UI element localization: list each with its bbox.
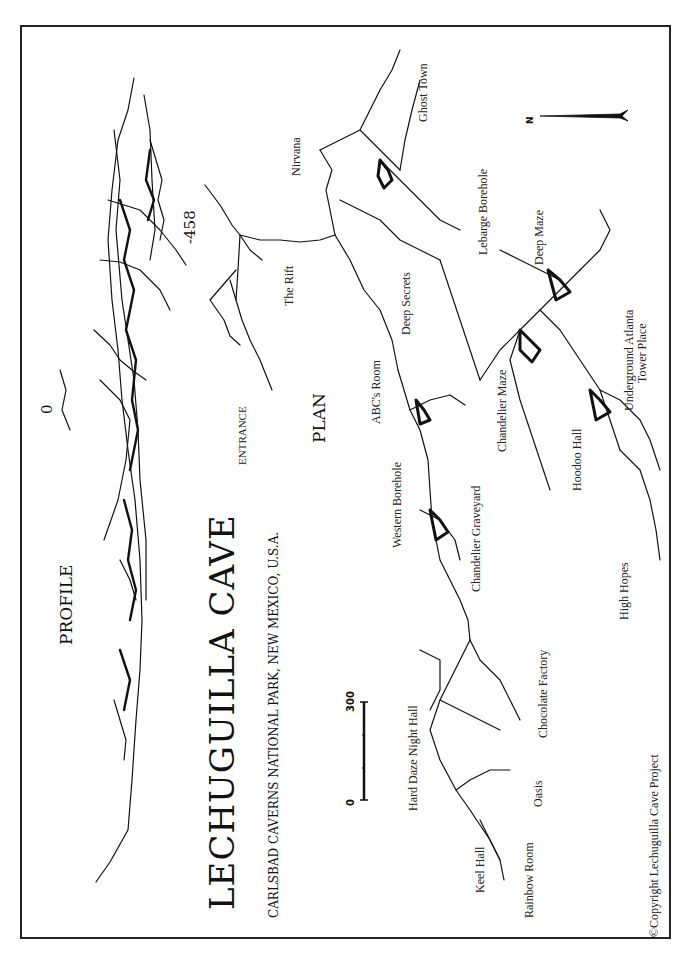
section-label-plan: PLAN [311,393,328,443]
place-chandelier-graveyard: Chandelier Graveyard [470,486,482,592]
north-label: N [526,116,535,124]
north-arrow [540,110,628,121]
copyright-notice: ©Copyright Lechuguilla Cave Project [648,754,660,937]
profile-lines [60,78,186,882]
place-western-borehole: Western Borehole [391,462,403,548]
place-the-rift: The Rift [283,266,295,306]
scale-bar [360,702,368,800]
place-rainbow-room: Rainbow Room [523,842,535,918]
place-ghost-town: Ghost Town [417,63,429,122]
place-oasis: Oasis [532,780,544,807]
profile-depth-zero: 0 [40,404,55,414]
place-abcs-room: ABC's Room [370,360,382,424]
place-deep-secrets: Deep Secrets [400,272,412,335]
scale-start-label: 0 [346,799,356,806]
place-keel-hall: Keel Hall [474,847,486,893]
place-hard-daze-night-hall: Hard Daze Night Hall [407,705,419,811]
place-underground-atlanta: Underground Atlanta [623,310,635,411]
place-entrance: ENTRANCE [237,406,248,465]
place-nirvana: Nirvana [290,137,302,176]
place-deep-maze: Deep Maze [533,210,545,265]
map-title: LECHUGUILLA CAVE [205,514,239,910]
place-chandelier-maze: Chandelier Maze [496,370,508,452]
scale-end-label: 300 [346,691,356,712]
place-lebarge-borehole: Lebarge Borehole [477,169,489,255]
place-tower-place: Tower Place [636,324,648,383]
place-high-hopes: High Hopes [618,562,630,620]
section-label-profile: PROFILE [58,565,75,645]
cave-survey-lines [0,0,690,964]
place-chocolate-factory: Chocolate Factory [537,650,549,738]
profile-depth-bottom: -458 [183,210,198,244]
map-subtitle: CARLSBAD CAVERNS NATIONAL PARK, NEW MEXI… [268,532,280,918]
place-hoodoo-hall: Hoodoo Hall [571,429,583,491]
